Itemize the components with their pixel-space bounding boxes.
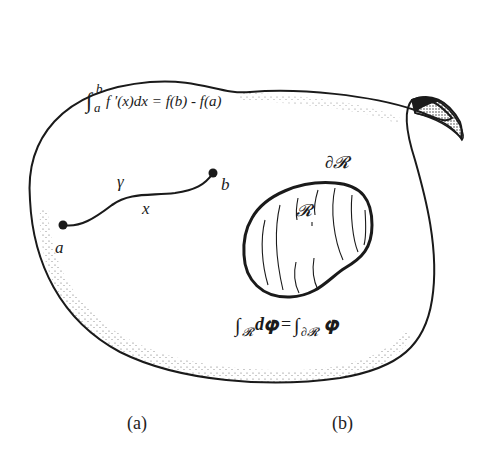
- point-b-marker: [209, 169, 218, 178]
- svg-text:d𝛗: d𝛗: [255, 314, 280, 334]
- label-x: x: [141, 199, 150, 218]
- manifold-outline: [30, 81, 452, 382]
- svg-text:b: b: [96, 81, 103, 96]
- label-a: a: [55, 238, 64, 257]
- label-b: b: [221, 175, 230, 194]
- caption-a: (a): [127, 413, 147, 434]
- svg-text:∫: ∫: [292, 314, 301, 338]
- svg-text:∫: ∫: [233, 314, 242, 338]
- svg-text:=: =: [281, 314, 291, 334]
- path-gamma: a b γ x: [55, 169, 230, 258]
- svg-text:𝓡: 𝓡: [242, 325, 256, 339]
- label-boundary: ∂𝓡: [325, 153, 352, 172]
- region-r: 𝓡 ∂𝓡: [244, 153, 372, 297]
- stokes-formula: ∫ 𝓡 d𝛗 = ∫ ∂𝓡 𝛗: [233, 314, 340, 339]
- svg-text:∫: ∫: [84, 88, 94, 114]
- label-gamma: γ: [117, 172, 125, 191]
- region-hatching: [262, 188, 365, 293]
- caption-b: (b): [332, 413, 353, 434]
- svg-text:f ′(x)dx = f(b) - f(a): f ′(x)dx = f(b) - f(a): [106, 93, 221, 110]
- svg-text:𝛗: 𝛗: [324, 314, 340, 334]
- svg-text:∂𝓡: ∂𝓡: [301, 325, 321, 339]
- label-region: 𝓡: [296, 201, 315, 220]
- stokes-theorem-diagram: ∫ b a f ′(x)dx = f(b) - f(a) a b γ x 𝓡: [0, 0, 489, 460]
- svg-text:a: a: [94, 100, 101, 115]
- point-a-marker: [59, 221, 68, 230]
- manifold-hook: [412, 97, 463, 140]
